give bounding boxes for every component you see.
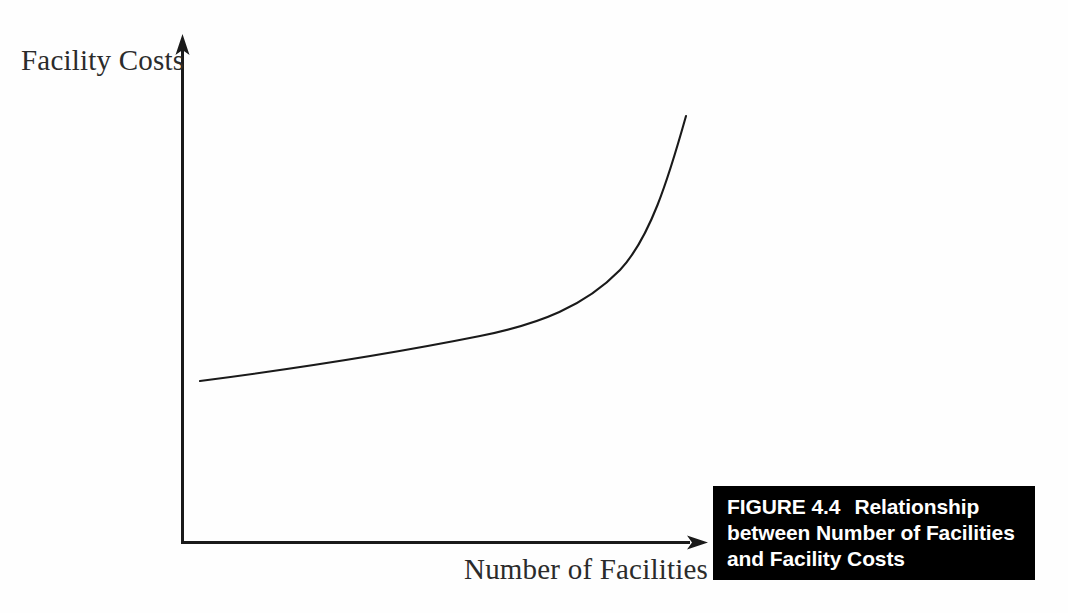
x-axis-arrowhead bbox=[687, 536, 708, 550]
x-axis-label: Number of Facilities bbox=[464, 553, 708, 586]
y-axis-label: Facility Costs bbox=[21, 44, 184, 77]
figure-page: Facility Costs Number of Facilities FIGU… bbox=[0, 0, 1068, 613]
cost-curve bbox=[200, 116, 686, 381]
figure-caption-label: FIGURE 4.4 bbox=[727, 495, 840, 518]
figure-caption-text: FIGURE 4.4Relationship between Number of… bbox=[727, 494, 1023, 572]
figure-caption-box: FIGURE 4.4Relationship between Number of… bbox=[713, 486, 1035, 580]
